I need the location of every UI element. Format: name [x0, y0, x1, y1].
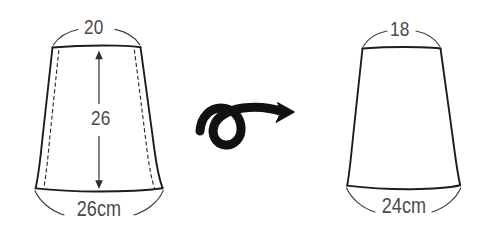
loop-arrow-icon — [200, 103, 295, 146]
left-skirt-height-label: 26 — [89, 105, 113, 130]
right-skirt-outline — [347, 47, 460, 189]
left-skirt-top-width-label: 20 — [84, 16, 103, 37]
right-skirt-bottom-width-label: 24cm — [382, 195, 426, 217]
right-skirt-top-width-label: 18 — [390, 18, 409, 39]
diagram-canvas: 20 26 26cm 18 24cm — [0, 0, 496, 234]
left-skirt-bottom-width-label: 26cm — [77, 198, 121, 220]
